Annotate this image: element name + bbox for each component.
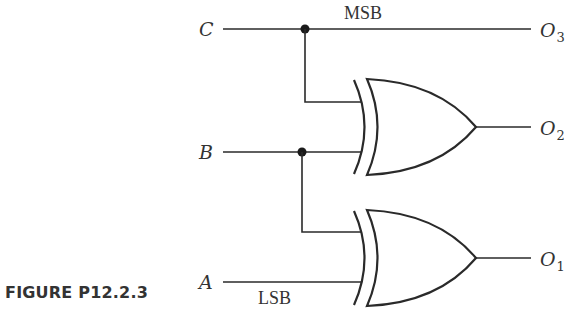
xor-body — [367, 79, 476, 175]
msb-label: MSB — [344, 3, 382, 23]
output-label-o2: O2 — [540, 117, 565, 143]
lsb-label: LSB — [258, 288, 291, 308]
input-label-b: B — [198, 141, 213, 163]
output-label-o1: O1 — [540, 248, 565, 274]
output-label-o3: O3 — [540, 19, 565, 45]
input-label-c: C — [199, 18, 214, 40]
input-label-a: A — [197, 271, 213, 293]
xor-body — [367, 210, 476, 306]
xor-back-curve — [354, 80, 365, 174]
wire-c-to-xor1 — [305, 29, 361, 102]
figure-caption: FIGURE P12.2.3 — [5, 283, 148, 302]
xor-gate-upper — [354, 79, 476, 175]
wire-b-to-xor2 — [302, 152, 361, 232]
xor-back-curve — [354, 211, 365, 305]
circuit-diagram: C MSB O3 B O2 A LSB O1 — [0, 0, 568, 327]
xor-gate-lower — [354, 210, 476, 306]
